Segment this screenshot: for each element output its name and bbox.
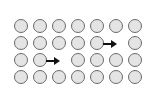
node-circle <box>71 53 85 67</box>
node-circle <box>71 19 85 33</box>
node-circle <box>90 70 104 84</box>
grid-cell <box>52 19 66 33</box>
grid-cell <box>33 70 47 84</box>
grid-cell <box>90 70 104 84</box>
grid-cell <box>90 36 104 50</box>
grid-cell <box>71 53 85 67</box>
node-circle <box>128 36 142 50</box>
node-circle <box>109 70 123 84</box>
grid-cell <box>71 70 85 84</box>
node-circle <box>71 70 85 84</box>
grid-cell <box>90 19 104 33</box>
grid-cell <box>71 19 85 33</box>
grid-cell <box>128 19 142 33</box>
grid-cell <box>128 70 142 84</box>
node-circle <box>90 36 104 50</box>
node-circle <box>71 36 85 50</box>
node-circle <box>52 70 66 84</box>
grid-cell <box>128 36 142 50</box>
node-circle <box>33 19 47 33</box>
node-circle <box>90 53 104 67</box>
grid-cell <box>14 70 28 84</box>
grid-cell <box>14 53 28 67</box>
node-circle <box>52 19 66 33</box>
grid-cell <box>14 19 28 33</box>
node-circle <box>14 36 28 50</box>
grid-cell <box>71 36 85 50</box>
node-circle <box>128 53 142 67</box>
node-circle <box>109 19 123 33</box>
node-circle <box>14 53 28 67</box>
grid-cell <box>33 53 47 67</box>
node-circle <box>109 53 123 67</box>
grid-diagram <box>0 0 166 108</box>
grid-cell <box>52 36 66 50</box>
grid-cell <box>109 19 123 33</box>
grid-cell <box>33 36 47 50</box>
node-circle <box>128 70 142 84</box>
arrow-head <box>111 40 117 48</box>
node-circle <box>14 19 28 33</box>
grid-cell <box>128 53 142 67</box>
grid-cell <box>90 53 104 67</box>
node-circle <box>33 36 47 50</box>
grid-cell <box>14 36 28 50</box>
grid-cell <box>109 70 123 84</box>
right-arrow-icon <box>103 42 117 45</box>
grid-cell <box>52 70 66 84</box>
arrow-head <box>54 57 60 65</box>
node-circle <box>14 70 28 84</box>
node-circle <box>33 53 47 67</box>
node-circle <box>52 36 66 50</box>
grid-cell <box>33 19 47 33</box>
grid-cell <box>109 53 123 67</box>
node-circle <box>90 19 104 33</box>
node-circle <box>33 70 47 84</box>
node-circle <box>128 19 142 33</box>
right-arrow-icon <box>46 59 60 62</box>
